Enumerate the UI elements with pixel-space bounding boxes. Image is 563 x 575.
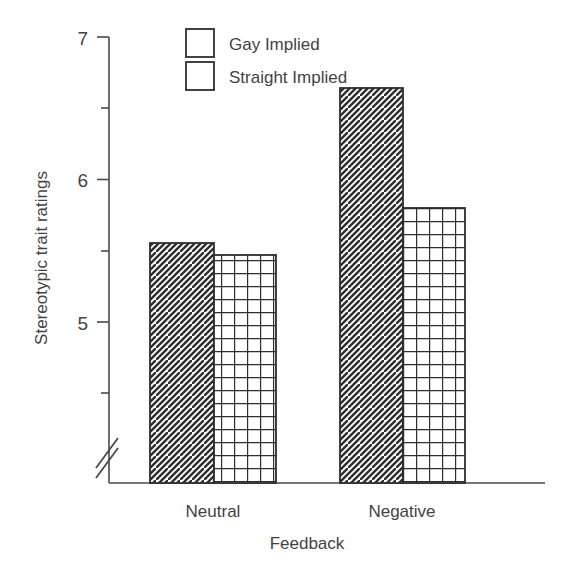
bar-negative-gay-implied [340, 88, 403, 483]
bar-neutral-gay-implied [150, 243, 214, 483]
legend-label-gay-implied: Gay Implied [229, 35, 320, 54]
y-axis: 7 6 5 [77, 28, 118, 483]
legend-swatch-straight-implied-icon [186, 62, 214, 90]
x-category-label-neutral: Neutral [186, 502, 241, 521]
bar-group-negative [340, 88, 465, 483]
bar-negative-straight-implied [403, 208, 465, 483]
y-tick-label-7: 7 [77, 28, 88, 49]
y-axis-title: Stereotypic trait ratings [32, 171, 51, 345]
bar-group-neutral [150, 243, 276, 483]
x-category-label-negative: Negative [368, 502, 435, 521]
legend-label-straight-implied: Straight Implied [229, 68, 347, 87]
legend-entry-gay-implied: Gay Implied [186, 29, 320, 57]
legend: Gay Implied Straight Implied [186, 29, 347, 90]
bar-neutral-straight-implied [214, 255, 276, 483]
y-tick-label-5: 5 [77, 313, 88, 334]
legend-swatch-gay-implied-icon [186, 29, 214, 57]
axis-break-icon [96, 438, 118, 478]
x-axis-title: Feedback [270, 534, 345, 553]
stereotypic-trait-ratings-bar-chart: 7 6 5 Neutral Negative Feedback Stereoty… [0, 0, 563, 575]
y-tick-label-6: 6 [77, 170, 88, 191]
legend-entry-straight-implied: Straight Implied [186, 62, 347, 90]
chart-canvas: 7 6 5 Neutral Negative Feedback Stereoty… [0, 0, 563, 575]
